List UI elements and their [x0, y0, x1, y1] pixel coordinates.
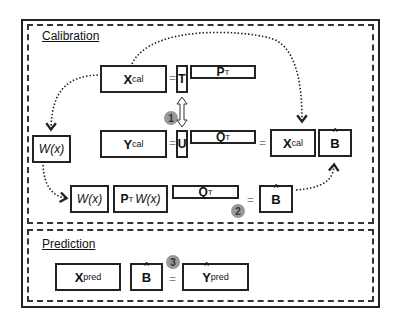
dotted-arrow-icon: [43, 165, 65, 198]
dotted-arrow-icon: [51, 75, 98, 128]
flow-arrows: [0, 0, 398, 317]
dotted-arrow-icon: [132, 32, 302, 120]
dotted-arrow-icon: [296, 166, 334, 190]
